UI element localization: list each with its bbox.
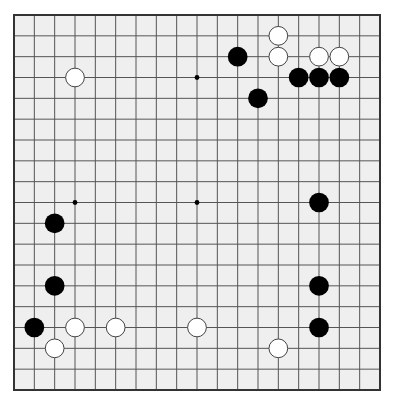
go-board-canvas[interactable] [0, 0, 396, 407]
black-stone [309, 318, 329, 338]
black-stone [45, 276, 65, 296]
black-stone [248, 88, 268, 108]
go-board[interactable] [0, 0, 396, 407]
white-stone [45, 339, 64, 358]
star-point [195, 75, 200, 80]
black-stone [309, 193, 329, 213]
black-stone [309, 68, 329, 88]
black-stone [45, 213, 65, 233]
white-stone [188, 318, 207, 337]
white-stone [330, 47, 349, 66]
black-stone [24, 318, 44, 338]
star-point [73, 200, 78, 205]
white-stone [66, 68, 85, 87]
white-stone [269, 26, 288, 45]
star-point [195, 200, 200, 205]
black-stone [289, 68, 309, 88]
white-stone [310, 47, 329, 66]
black-stone [329, 68, 349, 88]
black-stone [228, 47, 248, 67]
white-stone [269, 339, 288, 358]
white-stone [66, 318, 85, 337]
white-stone [106, 318, 125, 337]
black-stone [309, 276, 329, 296]
white-stone [269, 47, 288, 66]
